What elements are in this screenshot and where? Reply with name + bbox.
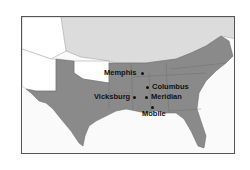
map-frame: Memphis Columbus Vicksburg Meridian Mobi… xyxy=(21,16,235,154)
city-label-columbus: Columbus xyxy=(152,83,189,91)
city-label-mobile: Mobile xyxy=(142,110,166,118)
city-dot-vicksburg xyxy=(133,96,136,99)
city-label-meridian: Meridian xyxy=(151,93,182,101)
city-dot-memphis xyxy=(141,72,144,75)
city-label-memphis: Memphis xyxy=(104,69,137,77)
city-dot-meridian xyxy=(145,96,148,99)
city-dot-columbus xyxy=(146,86,149,89)
city-label-vicksburg: Vicksburg xyxy=(94,93,130,101)
map-svg xyxy=(22,17,235,154)
